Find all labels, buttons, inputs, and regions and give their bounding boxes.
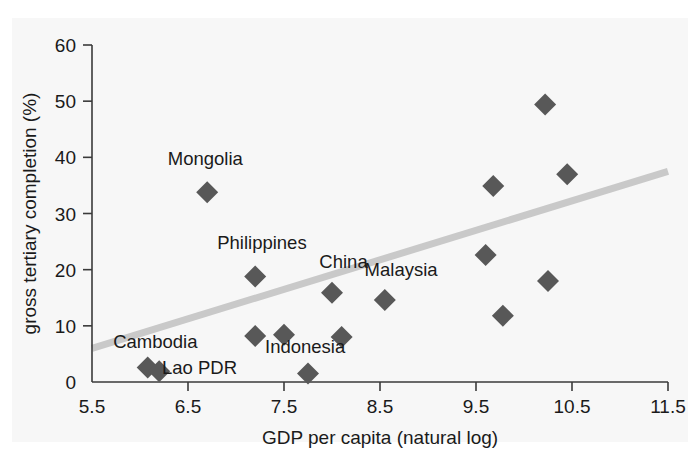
data-point-philippines [244, 265, 266, 287]
point-label-mongolia: Mongolia [168, 148, 244, 169]
data-point [244, 325, 266, 347]
point-label-philippines: Philippines [217, 232, 306, 253]
y-axis-tick-label: 0 [65, 372, 76, 393]
data-point [492, 305, 514, 327]
point-label-lao-pdr: Lao PDR [162, 357, 237, 378]
data-point [482, 175, 504, 197]
x-axis-tick-label: 6.5 [175, 396, 201, 417]
x-axis-tick-label: 11.5 [650, 396, 686, 417]
point-label-indonesia: Indonesia [265, 336, 346, 357]
y-axis-tick-label: 40 [55, 147, 76, 168]
point-annotation-layer: MongoliaPhilippinesChinaMalaysiaIndonesi… [113, 148, 438, 378]
x-axis-tick-label: 8.5 [367, 396, 393, 417]
y-axis-tick-label: 60 [55, 35, 76, 56]
data-point [556, 163, 578, 185]
scatter-plot: 01020304050605.56.57.58.59.510.511.5 Mon… [0, 0, 700, 460]
y-axis-tick-label: 10 [55, 316, 76, 337]
data-point [475, 244, 497, 266]
y-axis-tick-label: 30 [55, 204, 76, 225]
data-marker-layer [137, 94, 579, 385]
x-axis-tick-label: 5.5 [79, 396, 105, 417]
x-axis-tick-label: 9.5 [463, 396, 489, 417]
point-label-china: China [319, 251, 368, 272]
y-axis-title: gross tertiary completion (%) [19, 93, 40, 335]
data-point [534, 94, 556, 116]
x-axis-tick-label: 10.5 [554, 396, 591, 417]
point-label-cambodia: Cambodia [113, 331, 198, 352]
data-point-china [321, 282, 343, 304]
data-point [537, 270, 559, 292]
point-label-malaysia: Malaysia [365, 259, 439, 280]
y-axis-tick-label: 20 [55, 260, 76, 281]
chart-screenshot: 01020304050605.56.57.58.59.510.511.5 Mon… [0, 0, 700, 460]
x-axis-title: GDP per capita (natural log) [262, 427, 498, 448]
data-point-mongolia [196, 181, 218, 203]
x-axis-tick-label: 7.5 [271, 396, 297, 417]
y-axis-tick-label: 50 [55, 91, 76, 112]
data-point-malaysia [374, 289, 396, 311]
